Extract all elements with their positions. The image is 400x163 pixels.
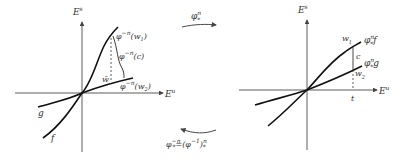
left-curve-g — [38, 78, 133, 107]
right-curve-phi-f — [268, 42, 361, 126]
forward-arrow — [182, 24, 216, 27]
forward-arrow-label: φn* — [191, 10, 200, 23]
right-label-w2: w2 — [355, 70, 365, 80]
left-label-phi-w2: φ−n(w2) — [120, 80, 151, 92]
right-label-w1: w1 — [342, 35, 352, 45]
left-label-g: g — [38, 109, 44, 118]
backward-arrow-label: φ−n*=(φ−1)n* — [166, 138, 206, 150]
right-label-phi-f: φn*f — [364, 34, 377, 47]
left-axis-eu-label: Eu — [165, 88, 175, 99]
left-label-wbar: w̄ — [102, 76, 109, 84]
left-label-phi-w1: φ−n(w1) — [116, 30, 147, 42]
left-label-f: f — [51, 134, 54, 143]
right-label-phi-g: φn*g — [364, 57, 379, 70]
right-axis-eu-label: Eu — [379, 85, 389, 96]
left-axis-es-label: Es — [73, 6, 83, 17]
right-label-c: c — [356, 53, 360, 61]
right-label-t: t — [351, 95, 354, 103]
right-axis-es-label: Es — [298, 4, 308, 15]
right-axes — [239, 20, 377, 150]
right-curve-phi-g — [255, 66, 362, 105]
left-label-phi-c: φ−n(c) — [119, 50, 144, 61]
backward-arrow — [181, 129, 216, 133]
